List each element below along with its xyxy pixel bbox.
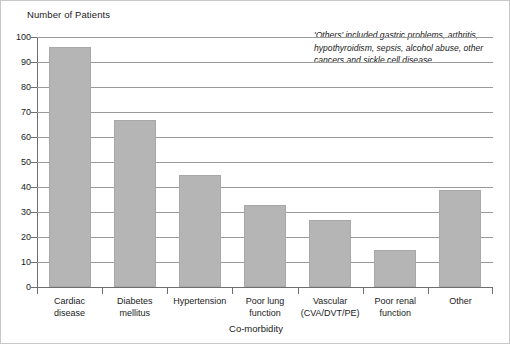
bar-2	[179, 175, 221, 288]
gridline-80	[37, 87, 493, 88]
x-axis-label-line: Poor renal	[363, 296, 428, 308]
x-axis-separator-0	[37, 287, 38, 294]
y-tick-label-30: 30	[5, 208, 31, 217]
x-axis-label-line: Vascular	[298, 296, 363, 308]
y-tick-mark-100	[31, 37, 37, 38]
y-tick-mark-80	[31, 87, 37, 88]
y-tick-label-20: 20	[5, 233, 31, 242]
gridline-40	[37, 187, 493, 188]
x-axis-separator-4	[298, 287, 299, 294]
x-axis-label-4: Vascular(CVA/DVT/PE)	[298, 296, 363, 319]
y-tick-label-60: 60	[5, 133, 31, 142]
y-tick-mark-50	[31, 162, 37, 163]
y-tick-label-90: 90	[5, 58, 31, 67]
bar-0	[49, 47, 91, 287]
gridline-50	[37, 162, 493, 163]
x-axis-label-5: Poor renalfunction	[363, 296, 428, 319]
y-axis-tick-labels: 1009080706050403020100	[5, 37, 31, 287]
gridline-90	[37, 62, 493, 63]
x-axis-label-1: Diabetesmellitus	[102, 296, 167, 319]
x-axis-separator-2	[167, 287, 168, 294]
gridline-100	[37, 37, 493, 38]
x-axis-label-line: Cardiac	[37, 296, 102, 308]
y-tick-label-40: 40	[5, 183, 31, 192]
x-axis-title: Co-morbidity	[1, 323, 510, 334]
x-axis-label-line: Poor lung	[232, 296, 297, 308]
bar-4	[309, 220, 351, 288]
bar-1	[114, 120, 156, 288]
y-tick-mark-30	[31, 212, 37, 213]
bar-chart-figure: Number of Patients 'Others' included gas…	[0, 0, 510, 344]
bar-6	[439, 190, 481, 288]
x-axis-label-0: Cardiacdisease	[37, 296, 102, 319]
x-axis-label-3: Poor lungfunction	[232, 296, 297, 319]
y-tick-label-0: 0	[5, 283, 31, 292]
y-tick-label-50: 50	[5, 158, 31, 167]
bar-3	[244, 205, 286, 288]
y-tick-mark-60	[31, 137, 37, 138]
gridline-70	[37, 112, 493, 113]
x-axis-label-line: function	[363, 308, 428, 320]
x-axis-label-6: Other	[428, 296, 493, 308]
x-axis-separator-3	[232, 287, 233, 294]
x-axis-separator-end	[492, 287, 493, 294]
y-tick-mark-20	[31, 237, 37, 238]
x-axis-separator-5	[363, 287, 364, 294]
x-axis-label-line: function	[232, 308, 297, 320]
x-axis-label-2: Hypertension	[167, 296, 232, 308]
y-tick-mark-90	[31, 62, 37, 63]
x-axis-separator-6	[428, 287, 429, 294]
x-axis-label-line: Other	[428, 296, 493, 308]
y-tick-mark-10	[31, 262, 37, 263]
x-axis-label-line: disease	[37, 308, 102, 320]
y-tick-label-80: 80	[5, 83, 31, 92]
bar-5	[374, 250, 416, 288]
y-tick-label-100: 100	[5, 33, 31, 42]
y-tick-mark-40	[31, 187, 37, 188]
x-axis-label-line: mellitus	[102, 308, 167, 320]
y-tick-mark-70	[31, 112, 37, 113]
gridline-60	[37, 137, 493, 138]
y-axis-title: Number of Patients	[27, 9, 110, 20]
y-tick-label-70: 70	[5, 108, 31, 117]
x-axis-label-line: Hypertension	[167, 296, 232, 308]
x-axis-label-line: Diabetes	[102, 296, 167, 308]
x-axis-separator-1	[102, 287, 103, 294]
plot-area	[37, 37, 493, 287]
x-axis-label-line: (CVA/DVT/PE)	[298, 308, 363, 320]
y-tick-label-10: 10	[5, 258, 31, 267]
